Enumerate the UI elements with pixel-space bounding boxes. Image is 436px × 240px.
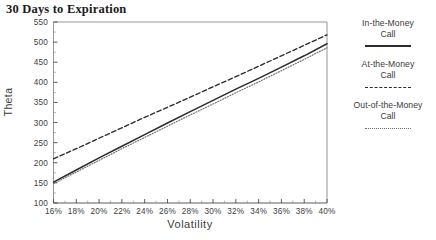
- svg-text:300: 300: [34, 119, 49, 128]
- svg-text:500: 500: [34, 38, 49, 47]
- chart-canvas: 30 Days to Expiration Theta Volatility 1…: [0, 0, 436, 240]
- legend-item-out-of-the-money: Out-of-the-Money Call: [340, 100, 436, 132]
- svg-text:38%: 38%: [296, 207, 313, 216]
- legend-text-line1: At-the-Money: [362, 59, 415, 69]
- legend-text-line1: Out-of-the-Money: [354, 100, 423, 110]
- svg-text:36%: 36%: [273, 207, 290, 216]
- svg-text:18%: 18%: [68, 207, 85, 216]
- svg-text:26%: 26%: [159, 207, 176, 216]
- legend-text-line2: Call: [380, 29, 395, 39]
- plot-svg: 10015020025030035040045050055016%18%20%2…: [0, 0, 340, 240]
- plot-area: Theta Volatility 10015020025030035040045…: [0, 0, 340, 240]
- svg-text:550: 550: [34, 18, 49, 27]
- legend-label: At-the-Money Call: [340, 59, 436, 80]
- svg-text:150: 150: [34, 179, 49, 188]
- chart-legend: In-the-Money Call At-the-Money Call Out-…: [340, 18, 436, 141]
- svg-text:16%: 16%: [45, 207, 62, 216]
- svg-text:200: 200: [34, 159, 49, 168]
- legend-label: Out-of-the-Money Call: [340, 100, 436, 121]
- dotted-line-icon: [365, 128, 411, 129]
- legend-text-line1: In-the-Money: [362, 18, 414, 28]
- svg-text:32%: 32%: [227, 207, 244, 216]
- svg-text:350: 350: [34, 98, 49, 107]
- svg-text:20%: 20%: [91, 207, 108, 216]
- svg-text:30%: 30%: [205, 207, 222, 216]
- legend-item-at-the-money: At-the-Money Call: [340, 59, 436, 91]
- legend-label: In-the-Money Call: [340, 18, 436, 39]
- legend-swatch-dotted: [340, 124, 436, 132]
- svg-text:24%: 24%: [136, 207, 153, 216]
- solid-line-icon: [365, 45, 411, 47]
- svg-text:400: 400: [34, 78, 49, 87]
- legend-swatch-dashed: [340, 83, 436, 91]
- svg-text:28%: 28%: [182, 207, 199, 216]
- svg-text:40%: 40%: [319, 207, 336, 216]
- dashed-line-icon: [365, 87, 411, 88]
- svg-text:250: 250: [34, 139, 49, 148]
- legend-item-in-the-money: In-the-Money Call: [340, 18, 436, 50]
- legend-text-line2: Call: [380, 111, 395, 121]
- legend-swatch-solid: [340, 42, 436, 50]
- legend-text-line2: Call: [380, 70, 395, 80]
- svg-text:22%: 22%: [113, 207, 130, 216]
- svg-text:34%: 34%: [250, 207, 267, 216]
- svg-text:450: 450: [34, 58, 49, 67]
